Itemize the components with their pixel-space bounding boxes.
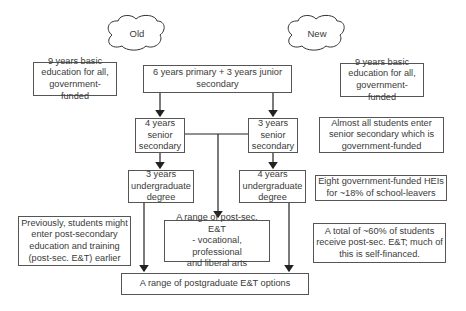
post-secondary-range-box: A range of post-sec. E&T - vocational, p… bbox=[164, 220, 270, 262]
new-undergraduate-box: 4 years undergraduate degree bbox=[239, 170, 306, 203]
previous-note-text: Previously, students might enter post-se… bbox=[21, 218, 128, 264]
postgrad-text: A range of postgraduate E&T options bbox=[140, 278, 291, 290]
old-undergrad-text: 3 years undergraduate degree bbox=[131, 169, 191, 204]
senior-note-text: Almost all students enter senior seconda… bbox=[329, 118, 434, 153]
new-basic-education-box: 9 years basic education for all, governm… bbox=[340, 63, 424, 97]
new-undergrad-text: 4 years undergraduate degree bbox=[243, 169, 303, 204]
old-senior-secondary-box: 4 years senior secondary bbox=[135, 118, 185, 153]
total-note-text: A total of ~60% of students receive post… bbox=[316, 226, 443, 261]
total-note-box: A total of ~60% of students receive post… bbox=[313, 223, 446, 263]
old-header: Old bbox=[122, 28, 152, 39]
hei-note-box: Eight government-funded HEIs for ~18% of… bbox=[315, 175, 447, 201]
primary-junior-secondary-box: 6 years primary + 3 years junior seconda… bbox=[143, 65, 292, 93]
old-basic-text: 9 years basic education for all, governm… bbox=[36, 56, 114, 102]
previous-note-box: Previously, students might enter post-se… bbox=[18, 216, 131, 266]
new-header: New bbox=[302, 28, 332, 39]
old-senior-text: 4 years senior secondary bbox=[139, 118, 181, 153]
new-basic-text: 9 years basic education for all, governm… bbox=[343, 57, 421, 103]
new-senior-text: 3 years senior secondary bbox=[252, 118, 294, 153]
old-basic-education-box: 9 years basic education for all, governm… bbox=[33, 62, 117, 96]
new-senior-secondary-box: 3 years senior secondary bbox=[248, 118, 298, 153]
senior-note-box: Almost all students enter senior seconda… bbox=[319, 117, 444, 153]
post-sec-text: A range of post-sec. E&T - vocational, p… bbox=[167, 212, 267, 270]
hei-note-text: Eight government-funded HEIs for ~18% of… bbox=[318, 176, 444, 199]
postgraduate-options-box: A range of postgraduate E&T options bbox=[121, 273, 309, 295]
primary-text: 6 years primary + 3 years junior seconda… bbox=[153, 67, 282, 90]
old-undergraduate-box: 3 years undergraduate degree bbox=[128, 170, 194, 203]
